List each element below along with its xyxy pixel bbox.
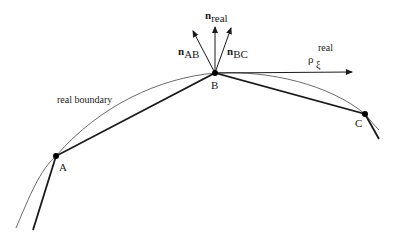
rho-label: ρ — [308, 53, 314, 65]
n-bc-label: nBC — [227, 45, 248, 60]
diagram-canvas: A B C real boundary nreal nAB nBC ρ real… — [0, 0, 396, 243]
point-b — [212, 70, 218, 76]
n-ab-label: nAB — [178, 45, 199, 60]
label-a: A — [59, 161, 67, 173]
rho-superscript: real — [318, 42, 333, 53]
real-boundary-label: real boundary — [57, 94, 112, 105]
diagram-svg: A B C real boundary nreal nAB nBC ρ real… — [0, 0, 396, 243]
label-c: C — [355, 117, 362, 129]
point-a — [53, 153, 59, 159]
point-c — [362, 111, 368, 117]
rho-arrow — [215, 72, 352, 73]
label-b: B — [211, 79, 218, 91]
rho-subscript: ξ — [316, 59, 321, 71]
n-real-label: nreal — [205, 9, 228, 24]
